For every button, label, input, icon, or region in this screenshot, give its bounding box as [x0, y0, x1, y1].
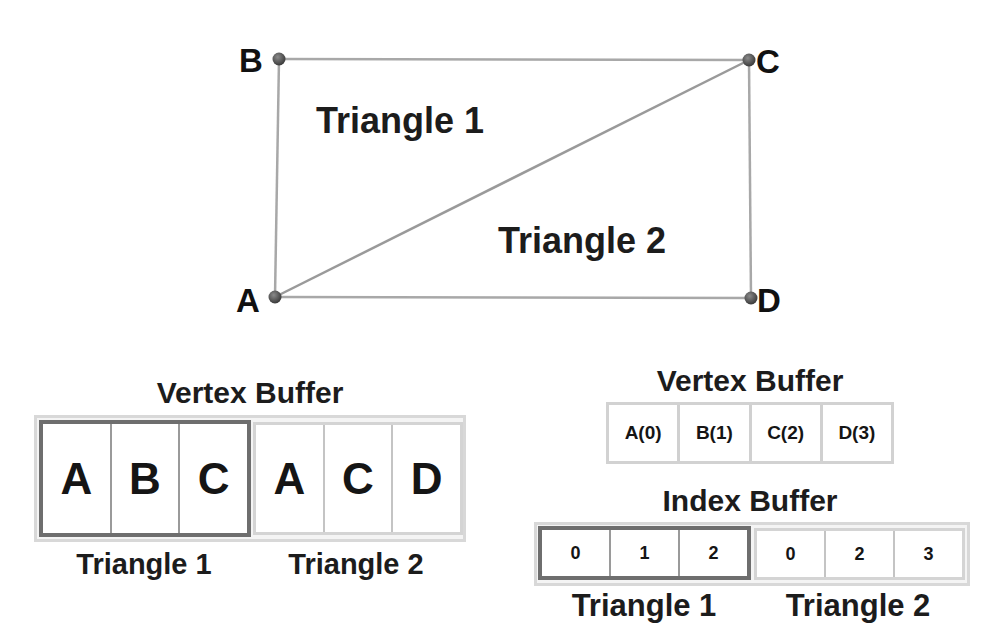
index-triangle-2-label: Triangle 2 [752, 588, 964, 624]
vertex-cell: C(2) [752, 405, 823, 461]
quad-diagram [0, 0, 998, 340]
vertex-cell: B(1) [680, 405, 751, 461]
vertex-d-dot [745, 292, 758, 305]
index-triangle-1-group: 0 1 2 [538, 526, 751, 580]
buffer-cell: D [393, 425, 460, 532]
index-buffer: 0 1 2 0 2 3 [534, 522, 970, 586]
index-cell: 0 [757, 531, 826, 577]
index-cell: 2 [826, 531, 895, 577]
index-cell: 2 [680, 530, 747, 576]
buffer-cell: A [256, 425, 325, 532]
left-triangle-1-label: Triangle 1 [38, 548, 250, 581]
buffer-cell: A [43, 424, 112, 533]
buffer-cell: C [180, 424, 247, 533]
vertex-cell: D(3) [823, 405, 891, 461]
left-vertex-buffer: A B C A C D [34, 415, 466, 542]
vertex-a-dot [269, 291, 282, 304]
right-vertex-buffer: A(0) B(1) C(2) D(3) [606, 402, 894, 464]
left-triangle-2-group: A C D [253, 422, 463, 535]
edge-da [275, 297, 751, 298]
region-label-triangle-2: Triangle 2 [498, 220, 666, 262]
index-triangle-2-group: 0 2 3 [754, 528, 965, 580]
buffer-cell: C [325, 425, 394, 532]
edge-cd [749, 60, 751, 298]
vertex-d-label: D [757, 284, 781, 317]
vertex-b-dot [273, 53, 286, 66]
vertex-a-label: A [236, 284, 260, 317]
edge-ab [275, 59, 279, 297]
index-triangle-1-label: Triangle 1 [538, 588, 750, 624]
index-cell: 0 [542, 530, 611, 576]
vertex-cell: A(0) [609, 405, 680, 461]
index-buffer-title: Index Buffer [600, 484, 900, 518]
buffer-cell: B [112, 424, 181, 533]
vertex-b-label: B [239, 44, 263, 77]
left-triangle-1-group: A B C [39, 420, 251, 537]
vertex-c-dot [743, 54, 756, 67]
index-cell: 3 [895, 531, 962, 577]
right-vertex-buffer-title: Vertex Buffer [600, 364, 900, 398]
left-triangle-2-label: Triangle 2 [250, 548, 462, 581]
vertex-c-label: C [756, 45, 780, 78]
left-vertex-buffer-title: Vertex Buffer [34, 376, 466, 410]
edge-bc [279, 59, 749, 60]
index-cell: 1 [611, 530, 680, 576]
region-label-triangle-1: Triangle 1 [316, 100, 484, 142]
